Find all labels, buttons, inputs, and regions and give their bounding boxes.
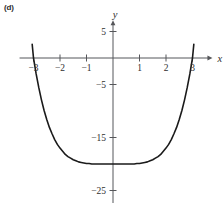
y-tick-label-5: 5 — [101, 27, 106, 37]
x-tick-label--3: −3 — [28, 63, 38, 73]
x-tick-label--1: −1 — [81, 63, 91, 73]
x-tick-label-2: 2 — [164, 63, 169, 73]
x-tick-label-1: 1 — [137, 63, 142, 73]
x-axis-arrow — [207, 56, 212, 61]
x-axis-name: x — [216, 53, 222, 64]
y-axis-arrow — [111, 20, 116, 25]
x-tick-label--2: −2 — [55, 63, 65, 73]
chart-svg: −3−2−11235−5−15−25yx — [0, 0, 223, 203]
x-tick-label-3: 3 — [190, 63, 195, 73]
y-axis-name: y — [112, 9, 118, 20]
figure-plot-area: −3−2−11235−5−15−25yx — [0, 0, 223, 203]
y-tick-label--25: −25 — [91, 186, 106, 196]
tick-labels-group: −3−2−11235−5−15−25yx — [28, 9, 222, 196]
y-tick-label--15: −15 — [91, 133, 106, 143]
axes-group — [20, 20, 213, 203]
y-tick-label--5: −5 — [96, 80, 106, 90]
